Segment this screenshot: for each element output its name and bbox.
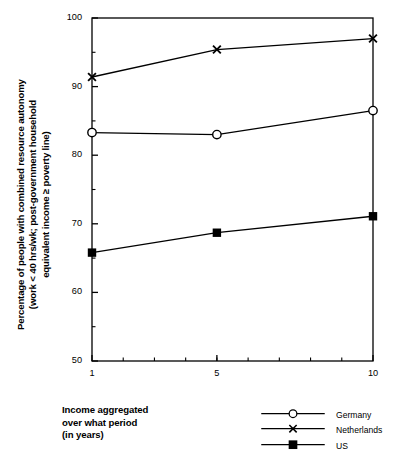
data-point-germany: [369, 106, 377, 114]
legend-label-netherlands: Netherlands: [336, 423, 382, 438]
plot-area: [0, 0, 393, 461]
x-tick-label: 5: [197, 368, 237, 378]
y-tick-label: 90: [0, 81, 82, 91]
legend-marker-open-circle: [258, 406, 328, 421]
plot-frame: [92, 18, 373, 361]
data-point-us: [213, 229, 221, 237]
legend-marker-filled-square: [258, 437, 328, 452]
legend-marker-x-cross: [258, 421, 328, 436]
y-tick-label: 100: [0, 12, 82, 22]
legend-label-us: US: [336, 439, 348, 454]
x-tick-label: 10: [353, 368, 393, 378]
data-point-us: [88, 248, 96, 256]
legend-label-germany: Germany: [336, 408, 371, 423]
data-point-germany: [88, 128, 96, 136]
series-line-netherlands: [92, 39, 373, 77]
x-axis-title-line-1: Income aggregated: [62, 404, 148, 415]
series-line-us: [92, 216, 373, 252]
chart-figure: Percentage of people with combined resou…: [0, 0, 393, 461]
x-axis-title-line-2: over what period: [62, 417, 137, 428]
y-tick-label: 80: [0, 149, 82, 159]
y-tick-label: 60: [0, 286, 82, 296]
series-line-germany: [92, 111, 373, 135]
y-tick-label: 70: [0, 218, 82, 228]
data-point-germany: [213, 130, 221, 138]
y-tick-label: 50: [0, 355, 82, 365]
x-axis-title-line-3: (in years): [62, 429, 104, 440]
x-tick-label: 1: [72, 368, 112, 378]
data-point-us: [369, 212, 377, 220]
y-axis-title-line-2: (work < 40 hrs/wk; post-government house…: [28, 100, 39, 309]
y-axis-title: Percentage of people with combined resou…: [15, 25, 52, 385]
x-axis-title: Income aggregated over what period (in y…: [62, 404, 212, 442]
